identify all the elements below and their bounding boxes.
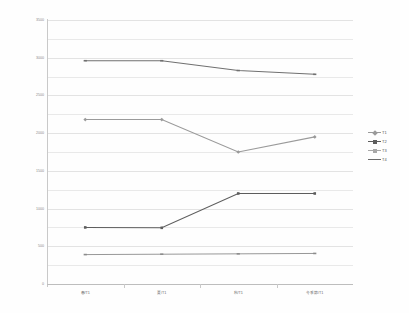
series-line — [85, 120, 315, 152]
legend-item-t3[interactable]: T3 — [368, 146, 408, 155]
y-axis-tick-label: 0 — [42, 282, 44, 286]
data-point-marker — [313, 192, 316, 195]
x-axis-tick-label: 冬季節/T1 — [306, 290, 324, 296]
x-axis-tick-label: 夏/T1 — [157, 290, 167, 296]
y-axis-tick-label: 2000 — [36, 131, 44, 135]
legend-marker-icon — [368, 128, 381, 137]
legend-marker-icon — [368, 137, 381, 146]
series-line — [85, 253, 315, 254]
data-point-marker — [236, 150, 240, 154]
legend-item-t1[interactable]: T1 — [368, 128, 408, 137]
chart-legend: T1T2T3T4 — [368, 128, 408, 164]
x-axis-tick-mark — [124, 284, 125, 288]
y-axis-tick-label: 3500 — [36, 18, 44, 22]
series-line — [85, 61, 315, 75]
legend-label: T4 — [382, 157, 387, 163]
series-lines — [47, 20, 353, 284]
y-axis-tick-label: 3000 — [36, 56, 44, 60]
legend-label: T2 — [382, 139, 387, 145]
data-point-marker — [83, 118, 87, 122]
series-line — [85, 193, 315, 227]
y-axis-labels: 3500300025002000150010005000 — [0, 20, 44, 284]
data-point-marker — [160, 118, 164, 122]
legend-item-t2[interactable]: T2 — [368, 137, 408, 146]
x-axis-tick-mark — [200, 284, 201, 288]
legend-label: T1 — [382, 130, 387, 136]
y-axis-tick-label: 2500 — [36, 93, 44, 97]
x-axis-tick-label: 秋/T1 — [234, 290, 244, 296]
x-axis-tick-mark — [277, 284, 278, 288]
legend-item-t4[interactable]: T4 — [368, 155, 408, 164]
legend-marker-icon — [368, 146, 381, 155]
y-axis-tick-label: 1000 — [36, 207, 44, 211]
y-axis-tick-label: 500 — [38, 244, 44, 248]
legend-label: T3 — [382, 148, 387, 154]
data-point-marker — [237, 192, 240, 195]
x-axis-tick-label: 春/T1 — [81, 290, 91, 296]
y-axis-tick-label: 1500 — [36, 169, 44, 173]
line-chart: 3500300025002000150010005000 春/T1夏/T1秋/T… — [0, 0, 409, 313]
data-point-marker — [313, 135, 317, 139]
legend-marker-icon — [368, 155, 381, 164]
x-axis-labels: 春/T1夏/T1秋/T1冬季節/T1 — [47, 290, 353, 304]
data-point-marker — [84, 226, 87, 229]
data-point-marker — [160, 227, 163, 230]
